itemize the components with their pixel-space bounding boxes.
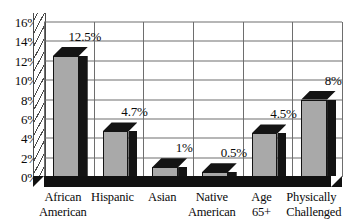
category-label-line: Age — [237, 190, 287, 205]
bar-front-face — [252, 133, 278, 177]
category-label-line: Hispanic — [88, 190, 138, 205]
x-axis-category-label: AfricanAmerican — [38, 190, 88, 220]
x-axis-category-label: PhysicallyChallenged — [286, 190, 336, 220]
x-axis-category-label: Hispanic — [88, 190, 138, 205]
category-label-line: Challenged — [286, 205, 336, 220]
bar-top-face — [103, 122, 138, 131]
bar-side-face — [277, 133, 286, 177]
category-separator — [292, 22, 293, 177]
chart-floor-3d — [33, 176, 342, 187]
bar-top-face — [202, 163, 237, 172]
bar[interactable] — [103, 131, 129, 177]
bar-data-label: 8% — [298, 74, 350, 87]
bar-slot — [103, 22, 129, 177]
bar[interactable] — [53, 56, 79, 177]
bar-top-face — [152, 158, 187, 167]
x-axis-category-label: Asian — [137, 190, 187, 205]
bar-front-face — [103, 131, 129, 177]
x-axis-categories: AfricanAmericanHispanicAsianNativeAmeric… — [44, 190, 342, 223]
bar-top-face — [252, 124, 287, 133]
category-label-line: Native — [187, 190, 237, 205]
bar[interactable] — [301, 100, 327, 178]
category-separator — [342, 22, 343, 177]
bar-slot — [53, 22, 79, 177]
category-separator — [44, 22, 45, 177]
bar-front-face — [301, 100, 327, 178]
category-label-line: Asian — [137, 190, 187, 205]
x-axis-category-label: NativeAmerican — [187, 190, 237, 220]
category-label-line: 65+ — [237, 205, 287, 220]
bar-side-face — [128, 131, 137, 177]
plot-area: 12.5%4.7%1%0.5%4.5%8% — [44, 22, 342, 177]
category-label-line: American — [187, 205, 237, 220]
bar-slot — [301, 22, 327, 177]
category-separator — [143, 22, 144, 177]
x-axis-category-label: Age65+ — [237, 190, 287, 220]
bar-side-face — [79, 56, 88, 177]
category-label-line: Physically — [286, 190, 336, 205]
bar[interactable] — [252, 133, 278, 177]
bar-top-face — [53, 47, 88, 56]
category-label-line: African — [38, 190, 88, 205]
bar-front-face — [53, 56, 79, 177]
category-label-line: American — [38, 205, 88, 220]
bar-slot — [252, 22, 278, 177]
bar-side-face — [327, 100, 336, 178]
bar-chart: 0%2%4%6%8%10%12%14%16% 12.5%4.7%1%0.5%4.… — [0, 0, 350, 223]
category-separator — [94, 22, 95, 177]
